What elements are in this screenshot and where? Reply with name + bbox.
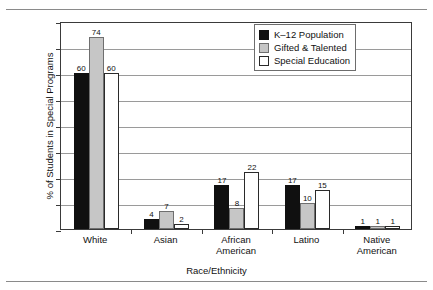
top-divider-rule [6, 9, 427, 10]
bar-value-label: 1 [391, 218, 395, 226]
x-axis-title: Race/Ethnicity [0, 265, 433, 276]
bar[interactable]: 2 [174, 224, 189, 229]
bar[interactable]: 17 [214, 185, 229, 229]
bar-chart-figure: % of Students in Special Programs 607460… [0, 0, 433, 290]
legend-swatch-icon [259, 30, 269, 40]
bar-series-container: 60746047217822171015111 [61, 23, 411, 229]
bar-value-label: 1 [361, 218, 365, 226]
x-category-label: Native American [342, 234, 412, 256]
bar-value-label: 15 [318, 182, 327, 190]
bar[interactable]: 1 [370, 226, 385, 229]
bar-value-label: 4 [149, 211, 153, 219]
legend-item[interactable]: K–12 Population [259, 28, 350, 41]
x-category-label: Latino [271, 234, 341, 245]
y-axis-title-container: % of Students in Special Programs [14, 22, 28, 230]
bar[interactable]: 4 [144, 219, 159, 229]
legend-label: Special Education [274, 56, 350, 66]
bar-group: 607460 [61, 23, 131, 229]
chart-legend: K–12 PopulationGifted & TalentedSpecial … [254, 24, 356, 71]
legend-label: K–12 Population [274, 30, 344, 40]
bar-value-label: 8 [235, 200, 239, 208]
bar-value-label: 2 [179, 216, 183, 224]
bar[interactable]: 1 [385, 226, 400, 229]
bar-value-label: 74 [92, 29, 101, 37]
bar-value-label: 17 [218, 177, 227, 185]
bottom-divider-rule [6, 281, 427, 282]
x-category-label: African American [201, 234, 271, 256]
bar[interactable]: 17 [285, 185, 300, 229]
bar[interactable]: 1 [355, 226, 370, 229]
y-tick-mark [56, 231, 61, 232]
bar-value-label: 22 [248, 164, 257, 172]
bar-value-label: 1 [376, 218, 380, 226]
x-category-label: White [60, 234, 130, 245]
y-axis-title: % of Students in Special Programs [44, 53, 55, 200]
legend-item[interactable]: Gifted & Talented [259, 41, 350, 54]
legend-swatch-icon [259, 56, 269, 66]
bar-group: 472 [131, 23, 201, 229]
legend-item[interactable]: Special Education [259, 54, 350, 67]
bar[interactable]: 15 [315, 190, 330, 229]
bar-value-label: 7 [164, 203, 168, 211]
legend-swatch-icon [259, 43, 269, 53]
bar-value-label: 17 [288, 177, 297, 185]
bar-value-label: 60 [107, 65, 116, 73]
bar-value-label: 60 [77, 65, 86, 73]
x-category-label: Asian [130, 234, 200, 245]
plot-area: 60746047217822171015111 [60, 22, 412, 230]
bar[interactable]: 7 [159, 211, 174, 229]
bar[interactable]: 22 [244, 172, 259, 229]
bar[interactable]: 74 [89, 37, 104, 229]
bar[interactable]: 60 [104, 73, 119, 229]
bar[interactable]: 10 [300, 203, 315, 229]
legend-label: Gifted & Talented [274, 43, 347, 53]
bar-value-label: 10 [303, 195, 312, 203]
bar[interactable]: 60 [74, 73, 89, 229]
bar[interactable]: 8 [229, 208, 244, 229]
